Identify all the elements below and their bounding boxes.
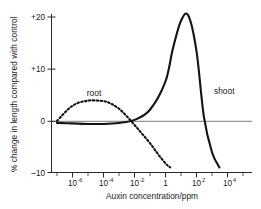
x-tick-base-1e-6: 10 xyxy=(68,179,78,188)
x-tick-base-1e-4: 10 xyxy=(99,179,109,188)
x-axis-title: Auxin concentration/ppm xyxy=(106,191,198,201)
auxin-response-chart: % change in length compared with control… xyxy=(0,0,261,209)
x-tick-base-1e4: 10 xyxy=(223,179,233,188)
y-tick-label-minus10: –10 xyxy=(31,169,45,178)
y-axis-title: % change in length compared with control xyxy=(9,16,19,172)
series-line-root xyxy=(57,100,170,167)
y-tick-label-10: +10 xyxy=(31,65,45,74)
y-tick-label-0: 0 xyxy=(40,117,45,126)
x-tick-label-1: 1 xyxy=(163,179,168,188)
chart-container: % change in length compared with control… xyxy=(0,0,261,209)
x-tick-label-1e-4: 10 -4 xyxy=(99,177,114,188)
x-tick-exp-1e-2: -2 xyxy=(140,177,145,183)
series-line-shoot xyxy=(57,13,219,167)
x-tick-base-1: 1 xyxy=(163,179,168,188)
x-tick-exp-1e4: 4 xyxy=(233,177,236,183)
x-tick-exp-1e2: 2 xyxy=(202,177,205,183)
series-annotation-shoot: shoot xyxy=(214,86,235,96)
x-tick-base-1e2: 10 xyxy=(192,179,202,188)
x-tick-label-1e4: 10 4 xyxy=(223,177,236,188)
x-tick-label-1e2: 10 2 xyxy=(192,177,205,188)
x-tick-exp-1e-6: -6 xyxy=(78,177,83,183)
x-tick-base-1e-2: 10 xyxy=(130,179,140,188)
x-tick-label-1e-6: 10 -6 xyxy=(68,177,83,188)
x-axis-minor-ticks xyxy=(57,173,243,177)
x-tick-label-1e-2: 10 -2 xyxy=(130,177,145,188)
x-tick-exp-1e-4: -4 xyxy=(109,177,114,183)
series-annotation-root: root xyxy=(87,88,102,98)
y-tick-label-20: +20 xyxy=(31,13,45,22)
